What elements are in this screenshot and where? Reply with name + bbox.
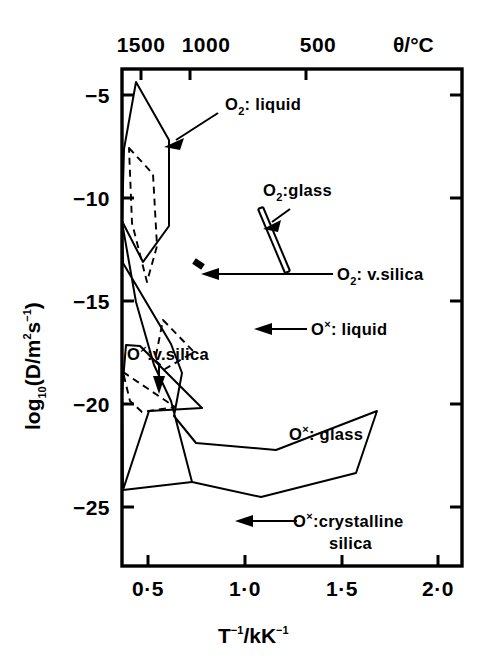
- top-axis-title: θ/°C: [393, 33, 434, 56]
- band-o2-glass-cap-top: [258, 207, 263, 209]
- label-ox-crystalline-base: O: [293, 512, 306, 530]
- y-axis-title-supm1: −1: [21, 309, 33, 322]
- x-axis-title-mid: /kK: [243, 624, 276, 647]
- label-o2-glass-base: O: [263, 181, 276, 199]
- label-o2-vsilica-base: O: [337, 265, 350, 283]
- bottom-tick-label-0-5: 0·5: [132, 577, 164, 600]
- bottom-tick-label-1-0: 1·0: [229, 577, 261, 600]
- label-ox-liquid-rest: : liquid: [331, 320, 387, 338]
- left-tick-label-minus20: −20: [73, 393, 110, 416]
- bottom-tick-label-2-0: 2·0: [422, 577, 454, 600]
- arrow-line-o2-liquid: [176, 113, 218, 140]
- region-ox-crystalline-base: [123, 482, 192, 490]
- right-axis-ticks: [450, 95, 462, 507]
- figure-container: 1500 1000 500 θ/°C −5 −10 −15: [0, 0, 500, 666]
- top-tick-label-500: 500: [300, 33, 337, 56]
- left-axis-tick-labels: −5 −10 −15 −20 −25: [73, 84, 110, 519]
- left-tick-label-minus5: −5: [85, 84, 110, 107]
- bottom-tick-label-1-5: 1·5: [326, 577, 358, 600]
- label-o2-liquid-base: O: [225, 95, 238, 113]
- band-o2-glass-edge-lower: [263, 207, 290, 271]
- region-ox-vsilica-outer: [122, 345, 202, 490]
- annotation-leaders: [153, 113, 333, 527]
- label-o2-vsilica-rest: : v.silica: [357, 265, 424, 283]
- label-ox-crystalline-sup: ×: [306, 510, 313, 522]
- left-tick-label-minus10: −10: [73, 187, 110, 210]
- y-axis-title-s: s: [21, 322, 44, 334]
- y-axis-title-sub10: 10: [36, 386, 48, 398]
- label-ox-crystalline-line2: silica: [329, 534, 373, 552]
- y-axis-title-log: log: [21, 399, 44, 431]
- y-axis-title-rest: (D/m: [21, 340, 44, 387]
- label-ox-liquid-sup: ×: [324, 318, 331, 330]
- band-o2-glass-edge-upper: [258, 209, 285, 273]
- label-ox-vsilica-sup: ×: [140, 343, 147, 355]
- svg-text:log10(D/m2s−1): log10(D/m2s−1): [21, 302, 48, 430]
- x-axis-title-sup1: −1: [231, 624, 244, 636]
- label-o2-glass: O2:glass: [263, 181, 332, 203]
- label-ox-crystalline-rest: :crystalline: [313, 512, 404, 530]
- label-o2-liquid: O2: liquid: [225, 95, 301, 117]
- left-tick-label-minus15: −15: [73, 290, 110, 313]
- label-ox-vsilica-rest: :v.silica: [147, 345, 210, 363]
- top-tick-label-1500: 1500: [117, 33, 166, 56]
- left-tick-label-minus25: −25: [73, 496, 110, 519]
- arrowhead-ox-liquid: [254, 323, 272, 335]
- label-ox-vsilica-base: O: [127, 345, 140, 363]
- bottom-axis-tick-labels: 0·5 1·0 1·5 2·0: [132, 577, 454, 600]
- arrowhead-o2-liquid: [164, 138, 184, 150]
- label-ox-glass-base: O: [289, 425, 302, 443]
- x-axis-title-t: T: [218, 624, 231, 647]
- label-ox-glass-rest: : glass: [309, 425, 363, 443]
- marker-o2-vsilica: [194, 261, 203, 267]
- arrowhead-ox-crystalline: [235, 515, 253, 527]
- label-ox-glass: O×: glass: [289, 423, 363, 443]
- label-o2-glass-rest: :glass: [283, 181, 333, 199]
- arrowhead-o2-vsilica: [201, 268, 219, 280]
- top-tick-label-1000: 1000: [182, 33, 231, 56]
- band-o2-glass: [258, 207, 290, 273]
- x-axis-title: T−1/kK−1: [218, 624, 289, 647]
- top-axis-tick-labels: 1500 1000 500: [117, 33, 337, 56]
- diffusion-coefficient-chart: 1500 1000 500 θ/°C −5 −10 −15: [0, 0, 500, 666]
- svg-text:T−1/kK−1: T−1/kK−1: [218, 624, 289, 647]
- top-axis-title-text: θ/°C: [393, 33, 434, 56]
- label-o2-vsilica: O2: v.silica: [337, 265, 424, 287]
- y-axis-title: log10(D/m2s−1): [21, 302, 48, 430]
- label-ox-liquid-base: O: [311, 320, 324, 338]
- label-ox-crystalline: O×:crystalline: [293, 510, 404, 530]
- label-o2-liquid-rest: : liquid: [245, 95, 301, 113]
- arrow-line-o2-glass: [272, 209, 290, 222]
- label-ox-liquid: O×: liquid: [311, 318, 387, 338]
- y-axis-title-close: ): [21, 302, 44, 309]
- label-ox-vsilica: O×:v.silica: [127, 343, 209, 363]
- band-o2-glass-cap-bottom: [285, 271, 290, 273]
- label-ox-glass-sup: ×: [302, 423, 309, 435]
- x-axis-title-sup2: −1: [276, 624, 289, 636]
